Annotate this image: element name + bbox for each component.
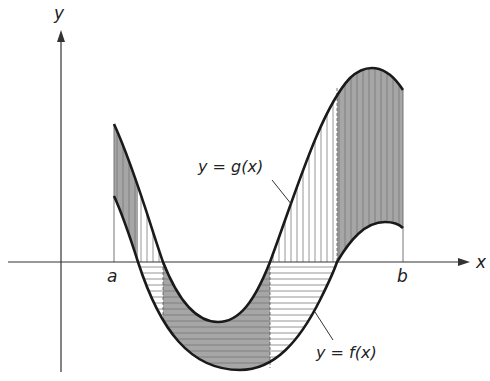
shaded-regions — [114, 40, 403, 381]
curve-f-label: y = f(x) — [315, 343, 377, 362]
region-light-horizontal-1 — [138, 262, 163, 381]
x-axis-label: x — [475, 252, 487, 272]
bound-a-label: a — [107, 266, 117, 286]
y-axis-arrow-icon — [57, 30, 65, 42]
area-between-curves-diagram: y x a b y = g(x) y = f(x) — [0, 0, 490, 381]
leader-line-g — [272, 180, 292, 205]
curve-g-label: y = g(x) — [197, 157, 263, 176]
y-axis-label: y — [53, 3, 65, 23]
x-axis-arrow-icon — [458, 258, 470, 266]
leader-line-f — [315, 312, 333, 340]
bound-b-label: b — [397, 266, 408, 286]
region-dark-left — [114, 60, 138, 262]
region-light-horizontal-2 — [270, 262, 337, 381]
region-dark-right — [337, 40, 403, 262]
region-light-vertical-2 — [270, 40, 337, 262]
region-light-vertical-1 — [138, 60, 163, 262]
